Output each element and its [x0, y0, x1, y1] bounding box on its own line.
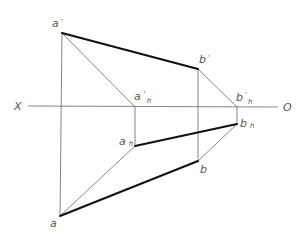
- line-a-h-to-a: [60, 146, 135, 216]
- label-a-prime-h: a'h: [134, 90, 151, 105]
- label-a-h: ah: [119, 135, 133, 148]
- line-b-h-to-b: [198, 124, 237, 161]
- x-o-axis: [28, 106, 278, 107]
- label-a: a: [50, 217, 57, 230]
- line-b-prime-to-b-prime-h: [198, 69, 237, 107]
- segment-a-h-b-h: [135, 124, 237, 146]
- connector-a: [60, 33, 62, 216]
- label-a-prime: a': [52, 17, 63, 30]
- label-b-h: bh: [240, 117, 254, 130]
- projection-diagram: X O a' b' a'h b'h ah bh a b: [0, 0, 303, 240]
- segment-a-prime-b-prime: [62, 33, 198, 69]
- label-b: b: [200, 163, 207, 176]
- axis-label-o: O: [283, 101, 292, 114]
- line-a-prime-to-a-prime-h: [62, 33, 135, 107]
- segment-a-b: [60, 161, 198, 216]
- label-b-prime: b': [199, 53, 210, 66]
- axis-label-x: X: [13, 100, 22, 113]
- label-b-prime-h: b'h: [236, 91, 252, 106]
